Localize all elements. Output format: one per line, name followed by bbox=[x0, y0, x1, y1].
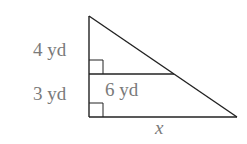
right-angle-marker-upper bbox=[89, 60, 103, 74]
label-4yd: 4 yd bbox=[33, 39, 67, 60]
triangle-figure: 4 yd 3 yd 6 yd x bbox=[0, 0, 247, 144]
right-angle-marker-lower bbox=[89, 103, 103, 117]
label-x: x bbox=[154, 117, 164, 138]
label-3yd: 3 yd bbox=[33, 83, 67, 104]
label-6yd: 6 yd bbox=[105, 79, 139, 100]
hypotenuse bbox=[89, 16, 237, 117]
diagram-canvas: 4 yd 3 yd 6 yd x bbox=[0, 0, 247, 144]
